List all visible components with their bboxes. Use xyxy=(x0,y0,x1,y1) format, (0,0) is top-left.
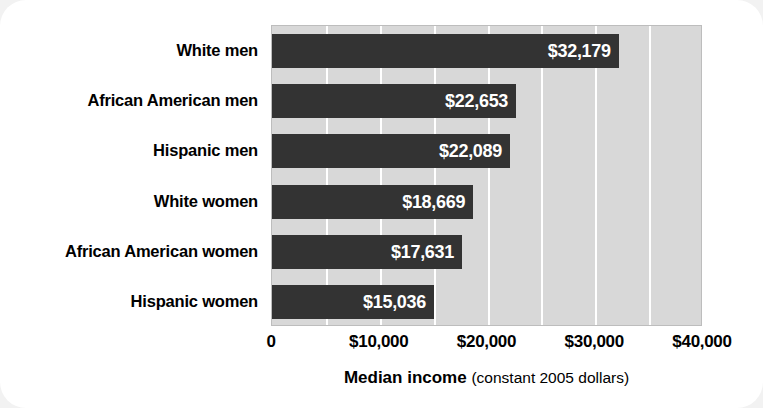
category-label: African American women xyxy=(0,242,258,261)
bar: $22,089 xyxy=(272,134,510,168)
chart-figure: White menAfrican American menHispanic me… xyxy=(0,0,763,408)
gridline xyxy=(380,26,382,325)
bar-row: $22,653 xyxy=(272,84,703,118)
gridline xyxy=(434,26,436,325)
bar: $18,669 xyxy=(272,185,473,219)
bar-value-label: $22,089 xyxy=(439,134,502,168)
bar-value-label: $17,631 xyxy=(391,235,454,269)
bar-row: $18,669 xyxy=(272,185,703,219)
bar-row: $17,631 xyxy=(272,235,703,269)
x-tick-label: $30,000 xyxy=(565,332,624,352)
x-tick-label: $40,000 xyxy=(672,332,731,352)
bar-row: $15,036 xyxy=(272,285,703,319)
category-label: White men xyxy=(0,41,258,60)
axis-title-bold: Median income xyxy=(344,368,467,387)
gridline xyxy=(326,26,328,325)
axis-title-normal: (constant 2005 dollars) xyxy=(471,369,629,386)
axis-title: Median income (constant 2005 dollars) xyxy=(271,368,702,388)
bar-row: $22,089 xyxy=(272,134,703,168)
category-axis-labels: White menAfrican American menHispanic me… xyxy=(0,25,258,325)
gridline xyxy=(649,26,651,325)
category-label: Hispanic men xyxy=(0,141,258,160)
x-tick-label: $10,000 xyxy=(349,332,408,352)
x-tick-label: $20,000 xyxy=(457,332,516,352)
gridline xyxy=(595,26,597,325)
category-label: Hispanic women xyxy=(0,292,258,311)
bar: $32,179 xyxy=(272,34,619,68)
bar-value-label: $32,179 xyxy=(548,34,611,68)
bar-row: $32,179 xyxy=(272,34,703,68)
plot-area: $32,179$22,653$22,089$18,669$17,631$15,0… xyxy=(271,25,702,326)
category-label: White women xyxy=(0,192,258,211)
value-axis-ticks: 0$10,000$20,000$30,000$40,000 xyxy=(271,332,702,358)
bar: $15,036 xyxy=(272,285,434,319)
gridline xyxy=(541,26,543,325)
x-tick-label: 0 xyxy=(266,332,275,352)
bar-value-label: $18,669 xyxy=(402,185,465,219)
category-label: African American men xyxy=(0,91,258,110)
bar-value-label: $22,653 xyxy=(445,84,508,118)
bar-value-label: $15,036 xyxy=(363,285,426,319)
gridline xyxy=(488,26,490,325)
bar: $17,631 xyxy=(272,235,462,269)
bar: $22,653 xyxy=(272,84,516,118)
